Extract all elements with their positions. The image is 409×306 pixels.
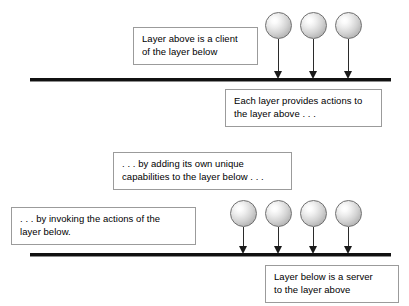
upper-layer-boundary-line xyxy=(30,78,391,81)
lower-layer-boundary-line xyxy=(30,253,391,256)
down-arrow-icon xyxy=(274,39,283,79)
caption-line: to the layer above xyxy=(274,284,391,297)
sphere-icon xyxy=(265,12,292,39)
caption-line: Layer below is a server xyxy=(274,271,391,284)
down-arrow-icon xyxy=(309,227,318,254)
layered-architecture-diagram: Layer above is a client of the layer bel… xyxy=(0,0,409,306)
caption-by-invoking-actions: . . . by invoking the actions of the lay… xyxy=(11,207,196,245)
down-arrow-icon xyxy=(309,39,318,79)
down-arrow-icon xyxy=(344,227,353,254)
down-arrow-icon xyxy=(274,227,283,254)
caption-line: of the layer below xyxy=(142,46,250,59)
sphere-icon xyxy=(335,12,362,39)
caption-layer-above-is-client: Layer above is a client of the layer bel… xyxy=(133,27,258,65)
caption-each-layer-provides-actions: Each layer provides actions to the layer… xyxy=(225,89,382,127)
sphere-icon xyxy=(335,200,362,227)
caption-line: the layer above . . . xyxy=(234,108,374,121)
caption-line: capabilities to the layer below . . . xyxy=(122,171,284,184)
caption-by-adding-own-capabilities: . . . by adding its own unique capabilit… xyxy=(113,152,292,190)
caption-line: . . . by adding its own unique xyxy=(122,158,284,171)
caption-line: Each layer provides actions to xyxy=(234,95,374,108)
sphere-icon xyxy=(300,12,327,39)
sphere-icon xyxy=(265,200,292,227)
caption-layer-below-is-server: Layer below is a server to the layer abo… xyxy=(265,265,399,303)
caption-line: . . . by invoking the actions of the xyxy=(20,213,188,226)
down-arrow-icon xyxy=(239,227,248,254)
sphere-icon xyxy=(230,200,257,227)
sphere-icon xyxy=(300,200,327,227)
caption-line: Layer above is a client xyxy=(142,33,250,46)
caption-line: layer below. xyxy=(20,226,188,239)
down-arrow-icon xyxy=(344,39,353,79)
